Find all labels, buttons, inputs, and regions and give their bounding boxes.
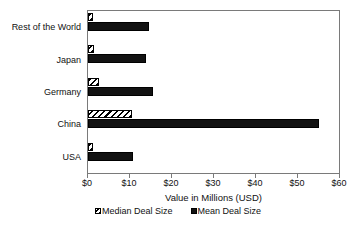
x-axis-tick-label: $0 [82, 178, 92, 189]
x-axis-tick-label: $20 [163, 178, 178, 189]
legend-item-mean: Mean Deal Size [191, 206, 262, 216]
category-axis-labels: Rest of the World Japan Germany China US… [0, 11, 84, 173]
x-axis-tick-label: $30 [205, 178, 220, 189]
hatched-square-icon [95, 208, 101, 214]
median-bar [88, 13, 93, 21]
mean-bar [88, 22, 149, 31]
category-label: Germany [0, 76, 84, 108]
median-bar [88, 78, 99, 86]
category-label: USA [0, 141, 84, 173]
mean-bar [88, 54, 146, 63]
median-bar [88, 45, 94, 53]
bar-group [88, 76, 340, 108]
legend-label: Median Deal Size [102, 206, 173, 216]
x-axis-tick-label: $50 [289, 178, 304, 189]
median-bar [88, 143, 93, 151]
category-label: China [0, 108, 84, 140]
bar-group [88, 11, 340, 43]
bar-chart: Rest of the World Japan Germany China US… [0, 0, 356, 229]
x-axis-title: Value in Millions (USD) [87, 192, 340, 203]
x-axis-tick-label: $10 [121, 178, 136, 189]
median-bar [88, 110, 132, 118]
bar-group [88, 43, 340, 75]
mean-bar [88, 119, 319, 128]
mean-bar [88, 152, 133, 161]
legend-label: Mean Deal Size [198, 206, 262, 216]
x-axis-tick-label: $40 [247, 178, 262, 189]
x-axis-tick-label: $60 [331, 178, 346, 189]
category-label: Japan [0, 43, 84, 75]
bar-group [88, 141, 340, 173]
mean-bar [88, 87, 153, 96]
chart-legend: Median Deal Size Mean Deal Size [0, 206, 356, 216]
bar-group [88, 108, 340, 140]
solid-square-icon [191, 208, 197, 214]
category-label: Rest of the World [0, 11, 84, 43]
bar-group-container [88, 11, 340, 173]
legend-item-median: Median Deal Size [95, 206, 173, 216]
